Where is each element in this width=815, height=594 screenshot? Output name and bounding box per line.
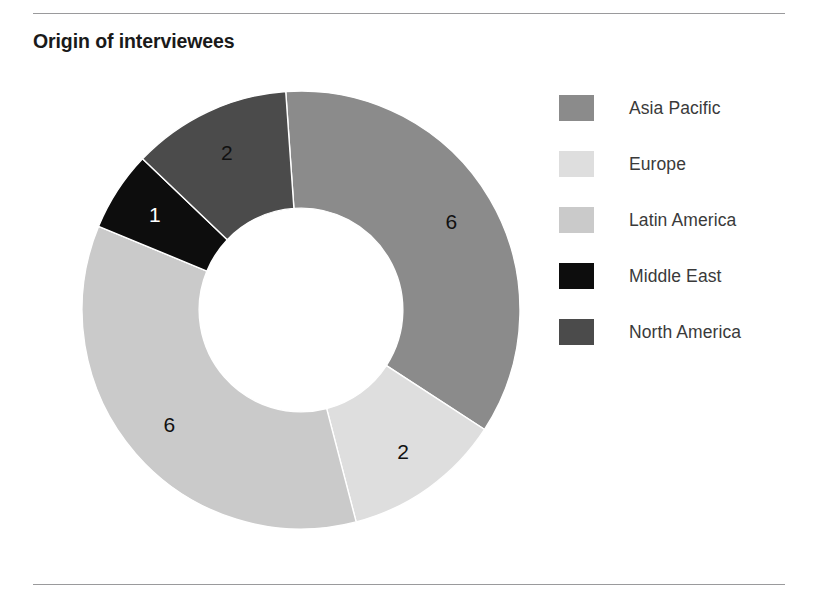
donut-slice-value-label: 6	[446, 210, 458, 233]
chart-legend: Asia Pacific Europe Latin America Middle…	[559, 80, 799, 360]
donut-slice-value-label: 1	[149, 203, 161, 226]
legend-item-label: Asia Pacific	[629, 98, 721, 119]
bottom-divider-rule	[33, 584, 785, 585]
legend-item[interactable]: Latin America	[559, 192, 799, 248]
legend-item-label: Middle East	[629, 266, 722, 287]
legend-item[interactable]: Asia Pacific	[559, 80, 799, 136]
top-divider-rule	[33, 13, 785, 14]
chart-page: Origin of interviewees 62612 Asia Pacifi…	[0, 0, 815, 594]
legend-item[interactable]: Europe	[559, 136, 799, 192]
donut-chart: 62612	[81, 90, 521, 530]
legend-item[interactable]: North America	[559, 304, 799, 360]
legend-item-label: Latin America	[629, 210, 736, 231]
legend-swatch-icon	[559, 207, 594, 233]
donut-slice-value-label: 2	[221, 141, 233, 164]
donut-slice-value-label: 2	[397, 440, 409, 463]
legend-swatch-icon	[559, 95, 594, 121]
legend-swatch-icon	[559, 263, 594, 289]
legend-item-label: Europe	[629, 154, 686, 175]
legend-item[interactable]: Middle East	[559, 248, 799, 304]
donut-slice[interactable]	[82, 226, 356, 529]
donut-chart-svg: 62612	[81, 90, 521, 530]
legend-swatch-icon	[559, 319, 594, 345]
donut-slice-group	[82, 91, 520, 529]
chart-title: Origin of interviewees	[33, 30, 235, 53]
donut-slice-value-label: 6	[164, 413, 176, 436]
legend-swatch-icon	[559, 151, 594, 177]
legend-item-label: North America	[629, 322, 741, 343]
